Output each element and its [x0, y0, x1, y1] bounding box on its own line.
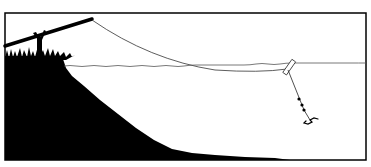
fishing-illustration	[0, 0, 371, 167]
